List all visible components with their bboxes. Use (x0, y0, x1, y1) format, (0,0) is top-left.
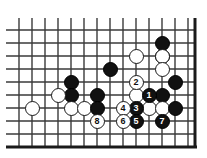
stone-white[interactable] (51, 88, 66, 103)
move-stone-5[interactable]: 5 (129, 114, 144, 129)
move-number-label: 5 (130, 115, 143, 128)
move-number-label: 7 (156, 115, 169, 128)
move-number-label: 4 (117, 102, 130, 115)
stone-white[interactable] (155, 62, 170, 77)
move-number-label: 8 (91, 115, 104, 128)
stone-black[interactable] (168, 75, 183, 90)
move-number-label: 1 (143, 89, 156, 102)
move-stone-8[interactable]: 8 (90, 114, 105, 129)
move-number-label: 2 (130, 76, 143, 89)
move-stone-6[interactable]: 6 (116, 114, 131, 129)
stone-white[interactable] (25, 101, 40, 116)
move-number-label: 6 (117, 115, 130, 128)
move-number-label: 3 (130, 102, 143, 115)
move-stone-2[interactable]: 2 (129, 75, 144, 90)
stone-white[interactable] (129, 49, 144, 64)
move-stone-7[interactable]: 7 (155, 114, 170, 129)
go-diagram-screenshot: 12345678 (0, 0, 207, 158)
stone-black[interactable] (168, 101, 183, 116)
move-stone-1[interactable]: 1 (142, 88, 157, 103)
stone-black[interactable] (103, 62, 118, 77)
